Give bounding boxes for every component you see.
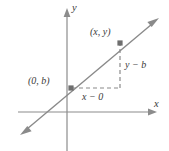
general-point-label: (x, y) <box>90 27 111 37</box>
slope-diagram-figure: y x (x, y) (0, b) y − b x − 0 <box>0 0 169 151</box>
y-axis-label: y <box>72 3 77 14</box>
diagram-canvas <box>0 0 169 151</box>
x-axis-arrowhead-icon <box>148 109 157 116</box>
rise-leg-label: y − b <box>125 60 146 70</box>
y-axis <box>64 8 71 151</box>
x-axis <box>18 109 157 116</box>
y-intercept-point-label: (0, b) <box>28 76 50 86</box>
y-axis-arrowhead-icon <box>64 8 71 17</box>
x-axis-label: x <box>154 99 159 110</box>
run-leg-label: x − 0 <box>82 92 103 102</box>
y-intercept-point-marker <box>68 85 73 90</box>
general-point-marker <box>117 40 122 45</box>
